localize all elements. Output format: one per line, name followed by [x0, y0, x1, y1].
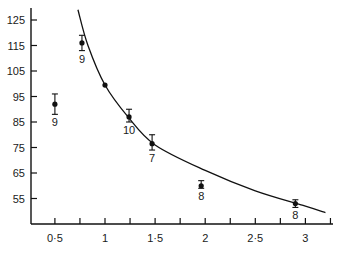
point-marker	[126, 114, 131, 119]
x-tick-label: 0·5	[47, 232, 63, 244]
y-tick-label: 95	[13, 91, 25, 103]
y-tick-label: 125	[7, 14, 25, 26]
sample-size-label: 10	[123, 124, 135, 136]
data-point: 9	[52, 94, 58, 128]
y-tick-label: 85	[13, 116, 25, 128]
data-point: 8	[292, 200, 298, 222]
y-tick-label: 105	[7, 65, 25, 77]
point-marker	[149, 141, 154, 146]
data-point: 9	[79, 35, 85, 64]
chart: 5565758595105115125 0·511·522·53 9910788	[0, 0, 341, 254]
axes	[31, 8, 333, 224]
y-axis-ticks: 5565758595105115125	[7, 14, 37, 205]
point-marker	[52, 102, 57, 107]
y-tick-label: 55	[13, 193, 25, 205]
point-marker	[293, 201, 298, 206]
data-point	[102, 82, 107, 87]
point-marker	[102, 82, 107, 87]
x-tick-label: 3	[302, 232, 308, 244]
sample-size-label: 8	[292, 209, 298, 221]
sample-size-label: 7	[149, 152, 155, 164]
x-tick-label: 2	[202, 232, 208, 244]
point-marker	[79, 40, 84, 45]
y-tick-label: 65	[13, 167, 25, 179]
sample-size-label: 9	[79, 53, 85, 65]
x-tick-label: 1	[102, 232, 108, 244]
y-tick-label: 75	[13, 142, 25, 154]
point-marker	[199, 183, 204, 188]
x-tick-label: 1·5	[147, 232, 163, 244]
data-point: 8	[198, 181, 204, 203]
y-tick-label: 115	[7, 40, 25, 52]
x-axis-ticks: 0·511·522·53	[47, 218, 331, 244]
sample-size-label: 8	[198, 190, 204, 202]
sample-size-label: 9	[52, 116, 58, 128]
x-tick-label: 2·5	[247, 232, 263, 244]
data-point: 7	[149, 135, 155, 164]
